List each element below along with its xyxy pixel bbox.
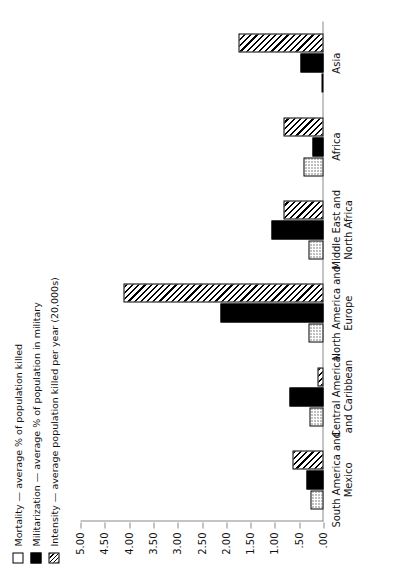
chart-canvas: Mortality — average % of population kill…	[0, 0, 401, 577]
bar-intensity	[238, 33, 323, 52]
value-axis-tick-label: .00	[318, 532, 329, 548]
bar-mortality	[310, 490, 323, 509]
value-axis-tick	[153, 522, 154, 528]
value-axis-tick-label: 4.00	[123, 532, 134, 554]
chart-figure: Mortality — average % of population kill…	[0, 0, 401, 577]
bar-group: Central America and Caribbean	[80, 354, 323, 437]
value-axis-tick	[104, 522, 105, 528]
value-axis-tick-label: 3.00	[172, 532, 183, 554]
value-axis-tick-label: 2.50	[196, 532, 207, 554]
bar-intensity	[292, 450, 323, 469]
hatched-square-icon	[48, 552, 59, 563]
bar-group: North America and Europe	[80, 271, 323, 354]
value-axis-tick-label: 2.00	[220, 532, 231, 554]
value-axis-tick	[129, 522, 130, 528]
value-axis-tick	[323, 522, 324, 528]
value-axis-tick	[80, 522, 81, 528]
legend-item-label: Mortality — average % of population kill…	[13, 343, 23, 546]
value-axis-tick-label: 1.50	[245, 532, 256, 554]
dotted-square-icon	[12, 552, 23, 563]
bar-militarization	[300, 53, 323, 72]
legend-item-label: Intensity — average population killed pe…	[49, 277, 59, 546]
bar-militarization	[271, 220, 323, 239]
value-axis-tick-label: .50	[293, 532, 304, 548]
value-axis-tick-label: 3.50	[147, 532, 158, 554]
value-axis-tick-label: 1.00	[269, 532, 280, 554]
bar-group: Asia	[80, 21, 323, 104]
bar-group: Middle East and North Africa	[80, 188, 323, 271]
bar-intensity	[283, 200, 323, 219]
bar-mortality	[321, 73, 323, 92]
bar-intensity	[123, 283, 323, 302]
category-label: Middle East and North Africa	[330, 181, 354, 277]
bar-group: South America and Mexico	[80, 438, 323, 521]
value-axis-tick	[202, 522, 203, 528]
bar-group: Africa	[80, 104, 323, 187]
value-axis-tick	[250, 522, 251, 528]
bar-militarization	[312, 137, 323, 156]
bar-mortality	[303, 157, 323, 176]
value-axis-tick-label: 5.00	[75, 532, 86, 554]
bar-intensity	[283, 117, 323, 136]
value-axis-tick	[226, 522, 227, 528]
category-label: South America and Mexico	[330, 431, 354, 527]
bar-mortality	[308, 240, 323, 259]
legend-item-label: Militarization — average % of population…	[31, 302, 41, 546]
bar-intensity	[317, 367, 323, 386]
category-label: Asia	[330, 15, 342, 111]
legend-item: Militarization — average % of population…	[28, 277, 43, 563]
chart-legend: Mortality — average % of population kill…	[10, 277, 64, 563]
legend-item: Intensity — average population killed pe…	[46, 277, 61, 563]
bar-militarization	[220, 303, 323, 322]
value-axis-tick	[299, 522, 300, 528]
value-axis-tick-label: 4.50	[99, 532, 110, 554]
value-axis-tick	[177, 522, 178, 528]
value-axis-tick	[274, 522, 275, 528]
black-square-icon	[30, 552, 41, 563]
category-label: Central America and Caribbean	[330, 348, 354, 444]
category-label: North America and Europe	[330, 265, 354, 361]
bar-mortality	[309, 407, 323, 426]
bar-militarization	[289, 387, 323, 406]
legend-item: Mortality — average % of population kill…	[10, 277, 25, 563]
category-label: Africa	[330, 98, 342, 194]
plot-area: 5.004.504.003.503.002.502.001.501.00.50.…	[80, 21, 323, 521]
bar-mortality	[308, 323, 323, 342]
bar-militarization	[306, 470, 323, 489]
